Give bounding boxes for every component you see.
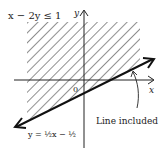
inequality-graph: x − 2y ≤ 1 y x 0 Line included y = ½x − … [0, 0, 165, 157]
y-axis-label: y [73, 8, 80, 18]
inequality-title: x − 2y ≤ 1 [8, 10, 62, 21]
annotation-arrow [133, 72, 138, 108]
equation-label: y = ½x − ½ [27, 130, 76, 139]
x-axis-label: x [149, 85, 154, 95]
origin-label: 0 [73, 85, 78, 94]
annotation-text: Line included [96, 116, 158, 126]
